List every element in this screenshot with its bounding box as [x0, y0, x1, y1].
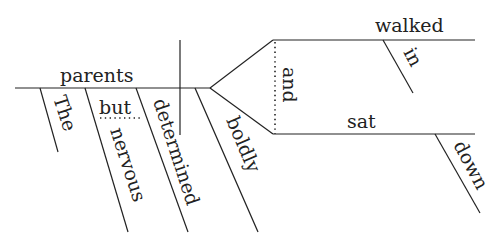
diagram-canvas: parents walked sat but The nervous deter… [0, 0, 495, 237]
word-down: down [449, 137, 493, 193]
word-sat: sat [347, 110, 376, 132]
word-the: The [49, 92, 81, 133]
fork-upper [210, 40, 273, 88]
sentence-diagram: parents walked sat but The nervous deter… [0, 0, 495, 237]
word-but: but [99, 96, 131, 118]
word-parents: parents [60, 64, 133, 86]
word-in: in [399, 44, 427, 71]
word-walked: walked [375, 14, 444, 36]
word-and: and [279, 67, 301, 103]
word-determined: determined [149, 95, 204, 207]
word-nervous: nervous [106, 124, 151, 204]
